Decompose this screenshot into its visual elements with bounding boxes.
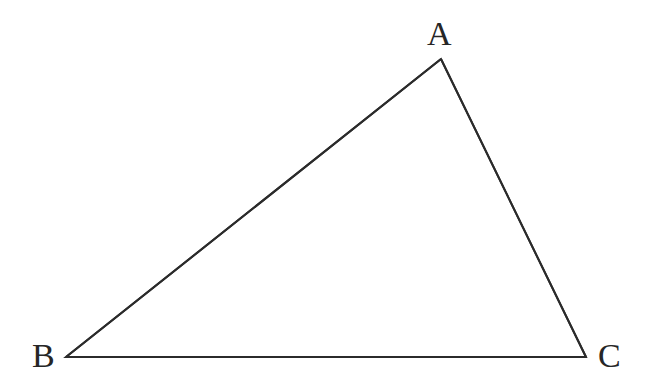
figure-canvas: A B C [0,0,646,388]
vertex-label-c: C [598,339,621,373]
vertex-label-b: B [32,339,55,373]
triangle-diagram [0,0,646,388]
diagram-background [0,0,646,388]
vertex-label-a: A [427,17,452,51]
